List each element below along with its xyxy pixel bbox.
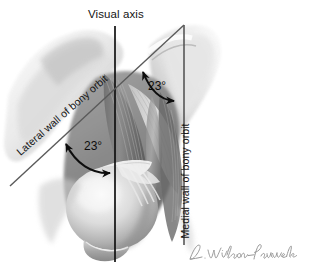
medial-wall-label: Medial wall of bony orbit	[180, 123, 191, 238]
visual-axis-label: Visual axis	[88, 9, 144, 21]
anatomy-figure: Visual axis Lateral wall of bony orbit M…	[0, 0, 314, 276]
angle-label-upper: 23°	[148, 79, 166, 93]
lateral-wall-line	[10, 25, 184, 186]
artist-signature	[186, 241, 298, 265]
angle-label-lower: 23°	[84, 139, 102, 153]
reference-lines-overlay	[0, 0, 314, 276]
